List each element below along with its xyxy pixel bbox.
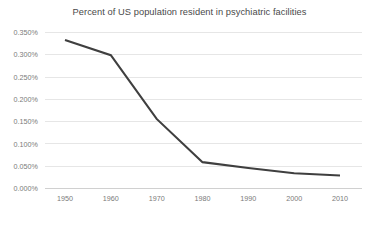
y-axis-tick-label: 0.100% xyxy=(14,140,39,149)
y-axis-tick-label: 0.350% xyxy=(14,28,39,37)
x-axis-tick-label: 2000 xyxy=(286,194,302,203)
y-axis-tick-label: 0.250% xyxy=(14,73,39,82)
chart-container: Percent of US population resident in psy… xyxy=(0,0,379,225)
x-axis-tick-label: 1960 xyxy=(103,194,119,203)
line-chart-plot: 0.000%0.050%0.100%0.150%0.200%0.250%0.30… xyxy=(0,0,379,225)
y-axis-tick-label: 0.150% xyxy=(14,117,39,126)
data-series-line xyxy=(65,40,340,176)
y-axis-tick-label: 0.300% xyxy=(14,50,39,59)
x-axis-tick-label: 2010 xyxy=(332,194,348,203)
x-axis-tick-label: 1970 xyxy=(149,194,165,203)
x-axis-tick-label: 1980 xyxy=(195,194,211,203)
gridlines xyxy=(45,33,362,189)
y-axis-tick-label: 0.200% xyxy=(14,95,39,104)
x-axis-tick-label: 1990 xyxy=(240,194,256,203)
x-axis-tick-labels: 1950196019701980199020002010 xyxy=(57,194,348,203)
y-axis-tick-labels: 0.000%0.050%0.100%0.150%0.200%0.250%0.30… xyxy=(14,28,39,193)
y-axis-tick-label: 0.050% xyxy=(14,162,39,171)
x-axis-tick-label: 1950 xyxy=(57,194,73,203)
y-axis-tick-label: 0.000% xyxy=(14,184,39,193)
data-series-group xyxy=(65,40,340,176)
